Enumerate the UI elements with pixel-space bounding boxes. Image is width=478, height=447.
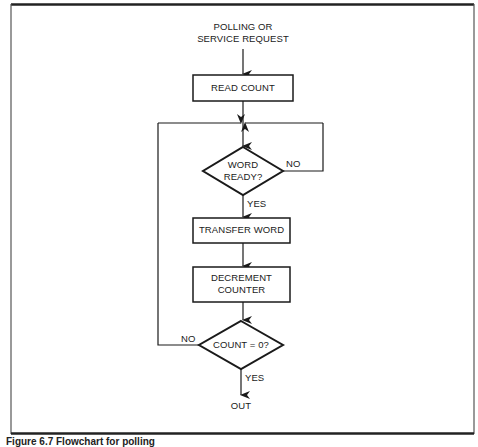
- word-ready-line1: WORD: [203, 159, 283, 171]
- decrement-line2: COUNTER: [193, 284, 290, 296]
- word-ready-label: WORD READY?: [203, 159, 283, 183]
- figure-caption: Figure 6.7 Flowchart for polling: [6, 436, 155, 447]
- word-ready-no-label: NO: [286, 158, 300, 170]
- start-label-line2: SERVICE REQUEST: [193, 33, 293, 45]
- count-zero-label: COUNT = 0?: [199, 339, 283, 351]
- word-ready-yes-label: YES: [247, 198, 266, 210]
- transfer-word-label: TRANSFER WORD: [193, 224, 290, 236]
- decrement-counter-label: DECREMENT COUNTER: [193, 272, 290, 296]
- read-count-label: READ COUNT: [193, 82, 293, 94]
- decrement-line1: DECREMENT: [193, 272, 290, 284]
- start-label: POLLING OR SERVICE REQUEST: [193, 21, 293, 45]
- count-zero-no-label: NO: [181, 333, 195, 345]
- start-label-line1: POLLING OR: [193, 21, 293, 33]
- end-label: OUT: [221, 400, 261, 412]
- word-ready-line2: READY?: [203, 171, 283, 183]
- count-zero-yes-label: YES: [245, 372, 264, 384]
